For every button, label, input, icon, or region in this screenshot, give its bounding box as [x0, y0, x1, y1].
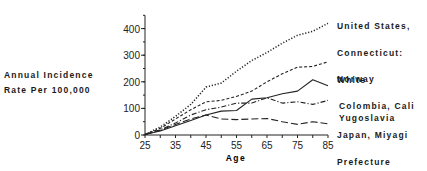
x-axis-label: Age: [226, 153, 247, 163]
y-axis-label-line-1: Annual Incidence: [4, 68, 154, 83]
series-lines: [145, 23, 328, 134]
legend-label-japan: Japan, Miyagi Prefecture: [337, 113, 408, 171]
legend-line: Prefecture: [337, 158, 408, 167]
x-tick-label: 85: [322, 140, 334, 151]
series-line-colombia-cali: [145, 80, 328, 135]
legend-line: United States,: [337, 22, 410, 31]
x-tick-label: 25: [139, 140, 151, 151]
series-line-united-states-connecticut-white: [145, 23, 328, 134]
legend-line: Norway: [337, 75, 375, 84]
x-tick-label: 55: [231, 140, 243, 151]
series-line-yugoslavia: [145, 98, 328, 135]
series-line-japan-miyagi-prefecture: [145, 115, 328, 135]
x-tick-label: 65: [261, 140, 273, 151]
x-tick-label: 35: [170, 140, 182, 151]
y-tick-label: 100: [123, 103, 140, 114]
y-tick-label: 400: [123, 24, 140, 35]
y-axis-label-line-2: Rate Per 100,000: [4, 83, 154, 98]
legend-line: Japan, Miyagi: [337, 131, 408, 140]
y-tick-label: 300: [123, 50, 140, 61]
x-tick-label: 75: [292, 140, 304, 151]
x-tick-label: 45: [200, 140, 212, 151]
series-line-norway: [145, 62, 328, 135]
y-axis-label: Annual Incidence Rate Per 100,000: [4, 68, 154, 98]
